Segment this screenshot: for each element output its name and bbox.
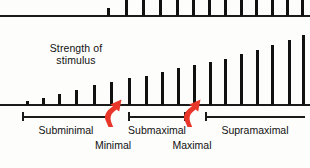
stimulus-bar (161, 72, 164, 105)
top-chart-bar (240, 0, 243, 16)
stimulus-bar (177, 68, 180, 105)
stimulus-bar (75, 90, 78, 105)
stimulus-bar (128, 78, 131, 105)
stimulus-bar (42, 98, 45, 105)
bracket-line (22, 116, 110, 118)
top-cropped-chart (0, 0, 310, 26)
stimulus-bar (26, 101, 29, 105)
range-scale: SubminimalSubmaximalSupramaximal Minimal… (0, 112, 310, 168)
range-bracket (22, 112, 110, 121)
stimulus-bar (58, 94, 61, 105)
stimulus-bar (93, 85, 96, 105)
range-bracket (128, 112, 186, 121)
top-chart-bar (107, 8, 110, 16)
threshold-label: Maximal (142, 139, 242, 151)
top-chart-bar (208, 0, 211, 16)
stimulus-strength-figure: Strength of stimulus SubminimalSubmaxima… (0, 0, 310, 168)
stimulus-bar (209, 62, 212, 105)
stimulus-bar (302, 35, 305, 105)
range-bracket (205, 112, 305, 121)
top-chart-bar (224, 0, 227, 16)
top-chart-bar (176, 0, 179, 16)
top-chart-bar (125, 0, 128, 16)
top-chart-bar (271, 0, 274, 16)
bracket-line (205, 116, 305, 118)
range-label: Supramaximal (195, 124, 310, 136)
main-chart-baseline (0, 104, 310, 106)
top-chart-bar (159, 0, 162, 16)
top-chart-bar (192, 0, 195, 16)
bracket-tick-left (22, 112, 24, 121)
bracket-line (128, 116, 186, 118)
stimulus-bar (224, 59, 227, 105)
stimulus-bar (145, 76, 148, 106)
y-axis-label: Strength of stimulus (30, 42, 122, 66)
threshold-arrow-icon (102, 98, 124, 128)
stimulus-bar (256, 50, 259, 105)
stimulus-bar (288, 40, 291, 105)
bracket-tick-left (205, 112, 207, 121)
bracket-tick-left (128, 112, 130, 121)
top-chart-bar (255, 0, 258, 16)
stimulus-bar (240, 54, 243, 105)
top-chart-bar (142, 0, 145, 16)
axis-label-line-2: stimulus (56, 54, 95, 66)
threshold-arrow-icon (181, 98, 203, 128)
top-chart-bar (301, 0, 304, 16)
axis-label-line-1: Strength of (50, 42, 102, 54)
top-chart-bar (286, 0, 289, 16)
stimulus-bar (271, 45, 274, 105)
main-bar-chart: Strength of stimulus (0, 26, 310, 111)
top-chart-baseline (0, 15, 310, 17)
